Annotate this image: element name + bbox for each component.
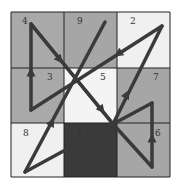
cell-label-9: 9 [77,16,83,26]
cell-label-4: 4 [22,16,28,26]
cell-label-8: 8 [23,128,29,138]
cell-label-2: 2 [130,16,136,26]
cell-label-7: 7 [153,72,159,82]
grid-cell-1 [64,123,117,177]
cell-label-3: 3 [47,72,53,82]
magic-square-diagram: 492357816 [0,0,179,188]
cell-label-6: 6 [155,128,161,138]
cell-label-5: 5 [100,72,106,82]
cell-label-1: 1 [77,128,83,138]
grid-cell-6 [117,123,170,177]
